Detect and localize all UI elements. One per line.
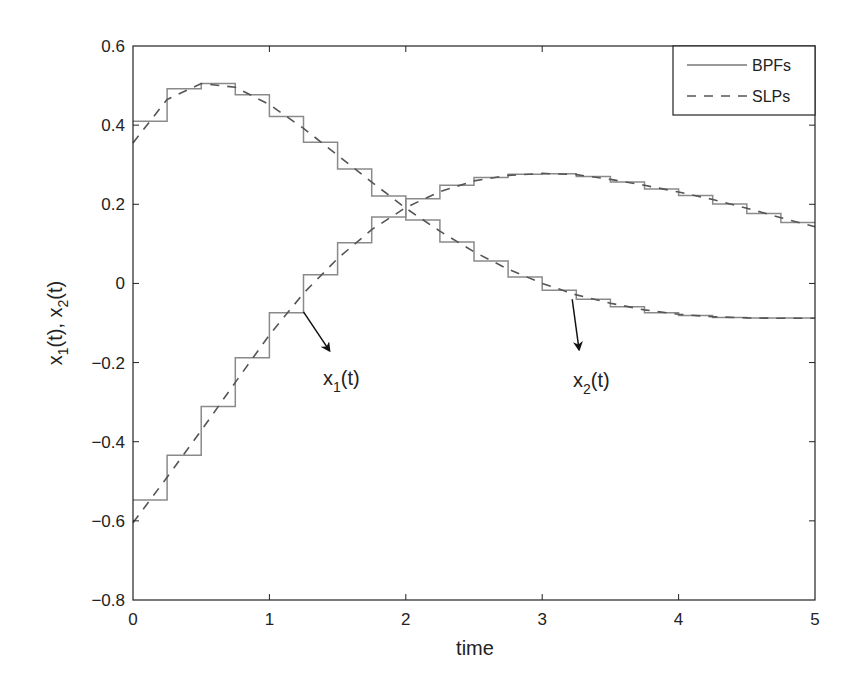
svg-text:x1(t), x2(t): x1(t), x2(t): [44, 281, 71, 365]
x-tick-label: 5: [810, 610, 819, 629]
chart-figure: 012345−0.8−0.6−0.4−0.200.20.40.6 x1(t)x2…: [0, 0, 862, 688]
legend-label-slps: SLPs: [752, 88, 790, 105]
x-tick-label: 0: [128, 610, 137, 629]
y-tick-label: 0.4: [101, 116, 125, 135]
y-tick-label: 0.2: [101, 195, 125, 214]
axes-frame: [133, 46, 815, 600]
y-tick-label: 0.6: [101, 37, 125, 56]
x-tick-label: 3: [537, 610, 546, 629]
line-chart: 012345−0.8−0.6−0.4−0.200.20.40.6 x1(t)x2…: [0, 0, 862, 688]
axis-ticks: 012345−0.8−0.6−0.4−0.200.20.40.6: [91, 37, 819, 629]
annotation-arrow-2: [572, 299, 579, 349]
slp-line-x2: [133, 173, 815, 522]
annotation-label-x2: x2(t): [573, 369, 610, 397]
plot-curves: [133, 84, 815, 523]
x-tick-label: 2: [401, 610, 410, 629]
x-tick-label: 1: [265, 610, 274, 629]
x-axis-label: time: [456, 637, 494, 659]
y-tick-label: −0.6: [91, 512, 125, 531]
y-tick-label: −0.2: [91, 354, 125, 373]
legend-label-bpfs: BPFs: [752, 57, 791, 74]
bpf-step-x2: [133, 174, 815, 500]
annotation-arrow-1: [304, 312, 330, 351]
y-tick-label: 0: [116, 274, 125, 293]
annotation-label-x1: x1(t): [323, 367, 360, 395]
x-tick-label: 4: [674, 610, 683, 629]
y-axis-label: x1(t), x2(t): [44, 281, 71, 365]
y-tick-label: −0.8: [91, 591, 125, 610]
legend-box: [673, 46, 815, 115]
y-tick-label: −0.4: [91, 433, 125, 452]
annotations: x1(t)x2(t): [304, 299, 610, 397]
legend: BPFs SLPs: [673, 46, 815, 115]
